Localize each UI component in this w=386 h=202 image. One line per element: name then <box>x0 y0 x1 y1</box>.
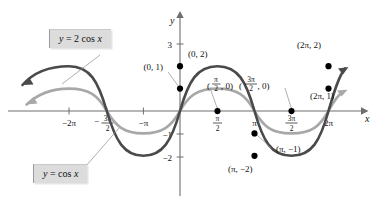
point-3pi-over-2-0 <box>288 108 294 114</box>
point-label-2pi-1: (2π, 1) <box>310 91 334 101</box>
x-tick-label-3pi-over-2-num: 3π <box>288 114 296 123</box>
point-label-pi-neg-1: (π, −1) <box>276 144 301 154</box>
point-pi-neg-1 <box>251 130 257 136</box>
y-axis-arrowhead <box>176 11 183 18</box>
point-label-0-2: (0, 2) <box>188 49 208 59</box>
point-label-pi-neg-2: (π, −2) <box>228 164 253 174</box>
x-axis-label: x <box>364 113 370 124</box>
point-2pi-2 <box>325 63 331 69</box>
legend-box-y-equals-2cos-x: y = 2 cos x <box>49 29 111 48</box>
x-tick-label-neg-2pi: −2π <box>62 118 77 128</box>
y-tick-label-minus-2: −2 <box>162 153 172 163</box>
point-label-0-1: (0, 1) <box>144 62 164 72</box>
point-label-3pi-over-2-0-paren-open: ( <box>239 81 242 91</box>
leader-line-3pi-over-2-0 <box>285 88 292 109</box>
point-label-2pi-2: (2π, 2) <box>297 40 321 50</box>
leader-line-legend-cos <box>86 128 119 166</box>
leader-line-0-1 <box>168 72 179 87</box>
legend-cos-body: = cos <box>47 168 73 179</box>
point-label-3pi-over-2-0-num: 3π <box>247 75 255 84</box>
two-cos-curve-right-arrowhead <box>338 67 349 75</box>
point-0-1 <box>177 86 183 92</box>
point-label-3pi-over-2-0-den: 2 <box>249 84 253 93</box>
x-tick-label-pi-over-2: π 2 <box>213 114 222 133</box>
x-tick-label-neg-pi: −π <box>139 118 149 128</box>
point-label-pi-over-2-0-paren-open: ( <box>207 81 210 91</box>
legend-2cos-var-x: x <box>97 33 101 44</box>
minus-sign-neg-3pi-2: − <box>94 116 99 126</box>
point-label-3pi-over-2-0-close: , 0) <box>258 81 270 91</box>
point-pi-over-2-0 <box>214 108 220 114</box>
legend-2cos-body: = 2 cos <box>63 33 97 44</box>
point-0-2 <box>177 63 183 69</box>
point-pi-neg-2 <box>251 153 257 159</box>
x-tick-label-pi-over-2-den: 2 <box>216 124 220 133</box>
x-tick-labels: −2π − 3π 2 −π π 2 π 3π 2 2π <box>62 114 334 133</box>
point-label-pi-over-2-0-num: π <box>214 75 218 84</box>
cosine-graph-figure: x y −2π − 3π 2 −π π 2 π 3π <box>0 0 386 202</box>
y-axis-label: y <box>169 15 175 26</box>
x-tick-label-3pi-over-2: 3π 2 <box>286 114 298 133</box>
legend-box-y-equals-cos-x: y = cos x <box>33 164 87 183</box>
point-label-pi-over-2-0-close: , 0) <box>221 81 233 91</box>
point-label-pi-over-2-0-den: 2 <box>214 84 218 93</box>
x-tick-label-neg-3pi-over-2-den: 2 <box>106 124 110 133</box>
x-tick-label-pi-over-2-num: π <box>216 114 220 123</box>
legend-cos-var-x: x <box>74 168 78 179</box>
y-tick-label-3: 3 <box>168 40 173 50</box>
x-tick-label-3pi-over-2-den: 2 <box>290 124 294 133</box>
